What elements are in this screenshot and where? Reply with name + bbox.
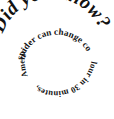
spiral-text-svg: Did you know? spider can change co lour …	[0, 0, 114, 119]
did-you-know-spiral-graphic: Did you know? spider can change co lour …	[0, 0, 114, 119]
